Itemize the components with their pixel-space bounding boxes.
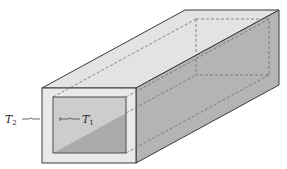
outer-temperature-label: T2 (5, 113, 40, 127)
svg-text:T2: T2 (5, 113, 17, 127)
duct-diagram: T2 T1 (0, 0, 287, 169)
outer-leader-line (22, 118, 40, 119)
